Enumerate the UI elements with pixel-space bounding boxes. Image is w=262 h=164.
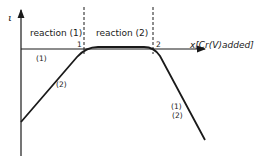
x-axis-label: x[Cr(V)added] (189, 40, 254, 50)
boundary-marker-2: 2 (156, 40, 161, 49)
region-label-reaction-1: reaction (1) (30, 28, 82, 38)
curve-label-falling-1: (1) (171, 102, 182, 111)
curve-label-rising-1: (1) (36, 54, 47, 63)
boundary-marker-1: 1 (77, 40, 82, 49)
curve-label-falling-2: (2) (172, 111, 183, 120)
titration-diagram: ι reaction (1) reaction (2) 1 2 x[Cr(V)a… (0, 0, 262, 164)
y-axis-label: ι (8, 12, 12, 23)
curve-label-rising-2: (2) (56, 80, 67, 89)
region-label-reaction-2: reaction (2) (96, 28, 148, 38)
titration-curve (21, 47, 205, 140)
